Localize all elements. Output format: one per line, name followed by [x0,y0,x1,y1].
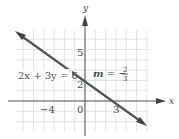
y-axis-arrow-icon [82,15,88,26]
y-tick-2: 2 [77,79,83,90]
slope-numerator: 2 [123,66,127,74]
x-tick-neg4: −4 [40,104,55,115]
equation-label: 2x + 3y = 6 [18,70,78,81]
slope-denominator: 3 [123,75,127,83]
coordinate-plane: x y −4 0 3 2 5 2x + 3y = 6 m = − 2 3 [0,0,179,139]
y-axis-label: y [82,3,89,13]
x-axis-arrow-icon [156,98,166,104]
y-tick-5: 5 [77,47,83,58]
x-tick-0: 0 [77,104,83,115]
slope-label: m = − [93,68,127,79]
x-axis-label: x [169,96,174,106]
x-tick-3: 3 [113,104,119,115]
